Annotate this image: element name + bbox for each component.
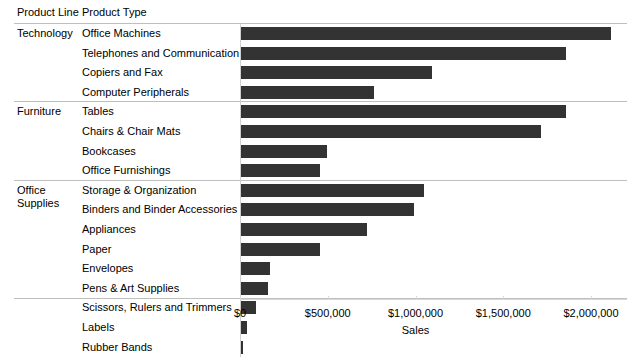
product-type-rows: TablesChairs & Chair MatsBookcasesOffice… — [14, 102, 627, 180]
x-axis-tick-label: $1,500,000 — [476, 307, 531, 319]
bar[interactable] — [241, 262, 270, 275]
table-row[interactable]: Computer Peripherals — [14, 83, 627, 103]
table-row[interactable]: Storage & Organization — [14, 181, 627, 201]
bar[interactable] — [241, 47, 566, 60]
x-axis-tick — [591, 296, 592, 300]
chart-grid: TechnologyOffice MachinesTelephones and … — [14, 23, 627, 299]
product-line-group: FurnitureTablesChairs & Chair MatsBookca… — [14, 102, 627, 180]
bar-cell — [240, 102, 627, 122]
bar-cell — [240, 279, 627, 299]
bar-cell — [240, 63, 627, 83]
bar[interactable] — [241, 105, 566, 118]
table-row[interactable]: Chairs & Chair Mats — [14, 122, 627, 142]
bar-cell — [240, 338, 627, 357]
x-axis-title-text: Sales — [212, 324, 430, 336]
product-type-label: Office Machines — [82, 26, 161, 40]
table-row[interactable]: Office Machines — [14, 24, 627, 44]
product-type-label: Binders and Binder Accessories — [82, 202, 237, 216]
x-axis-tick-label: $1,000,000 — [388, 307, 443, 319]
bar[interactable] — [241, 145, 327, 158]
x-axis-tick-label: $2,000,000 — [563, 307, 618, 319]
x-axis-line — [240, 299, 627, 300]
table-row[interactable]: Telephones and Communication — [14, 44, 627, 64]
table-row[interactable]: Paper — [14, 240, 627, 260]
bar[interactable] — [241, 184, 424, 197]
x-axis-tick-label: $500,000 — [305, 307, 351, 319]
product-type-label: Computer Peripherals — [82, 85, 189, 99]
bar-cell — [240, 83, 627, 103]
product-type-label: Appliances — [82, 222, 136, 236]
bar[interactable] — [241, 282, 268, 295]
table-row[interactable]: Binders and Binder Accessories — [14, 200, 627, 220]
bar-cell — [240, 181, 627, 201]
bar[interactable] — [241, 243, 320, 256]
x-axis-tick — [503, 296, 504, 300]
bar[interactable] — [241, 164, 320, 177]
product-type-label: Tables — [82, 104, 114, 118]
x-axis-tick-label: $0 — [234, 307, 246, 319]
product-type-label: Storage & Organization — [82, 183, 196, 197]
table-row[interactable]: Pens & Art Supplies — [14, 279, 627, 299]
product-type-label: Telephones and Communication — [82, 46, 239, 60]
product-type-label: Scissors, Rulers and Trimmers — [82, 300, 232, 314]
product-type-label: Envelopes — [82, 261, 133, 275]
bar[interactable] — [241, 86, 374, 99]
bar[interactable] — [241, 125, 541, 138]
bar-cell — [240, 259, 627, 279]
product-type-label: Office Furnishings — [82, 163, 170, 177]
bar[interactable] — [241, 27, 611, 40]
x-axis-tick — [328, 296, 329, 300]
x-axis-tick — [240, 296, 241, 300]
bar-cell — [240, 161, 627, 181]
bar-cell — [240, 44, 627, 64]
product-type-label: Pens & Art Supplies — [82, 281, 179, 295]
x-axis-title: Sales — [0, 324, 641, 336]
table-row[interactable]: Envelopes — [14, 259, 627, 279]
table-row[interactable]: Tables — [14, 102, 627, 122]
x-axis-tick — [416, 296, 417, 300]
product-type-label: Copiers and Fax — [82, 65, 163, 79]
product-type-rows: Office MachinesTelephones and Communicat… — [14, 24, 627, 102]
bar-cell — [240, 200, 627, 220]
product-type-label: Bookcases — [82, 144, 136, 158]
bar[interactable] — [241, 66, 432, 79]
bar[interactable] — [241, 203, 414, 216]
bar[interactable] — [241, 223, 367, 236]
column-headers: Product Line Product Type — [0, 6, 641, 23]
product-type-label: Paper — [82, 242, 111, 256]
bar[interactable] — [241, 341, 243, 354]
product-line-group: TechnologyOffice MachinesTelephones and … — [14, 24, 627, 102]
bar-cell — [240, 142, 627, 162]
table-row[interactable]: Appliances — [14, 220, 627, 240]
product-type-label: Chairs & Chair Mats — [82, 124, 180, 138]
bar-cell — [240, 240, 627, 260]
bar-cell — [240, 220, 627, 240]
bar-cell — [240, 122, 627, 142]
table-row[interactable]: Office Furnishings — [14, 161, 627, 181]
table-row[interactable]: Bookcases — [14, 142, 627, 162]
bar-cell — [240, 24, 627, 44]
product-type-label: Rubber Bands — [82, 340, 152, 354]
table-row[interactable]: Rubber Bands — [14, 338, 627, 357]
product-type-header: Product Type — [82, 6, 147, 18]
table-row[interactable]: Copiers and Fax — [14, 63, 627, 83]
product-line-header: Product Line — [17, 6, 79, 18]
